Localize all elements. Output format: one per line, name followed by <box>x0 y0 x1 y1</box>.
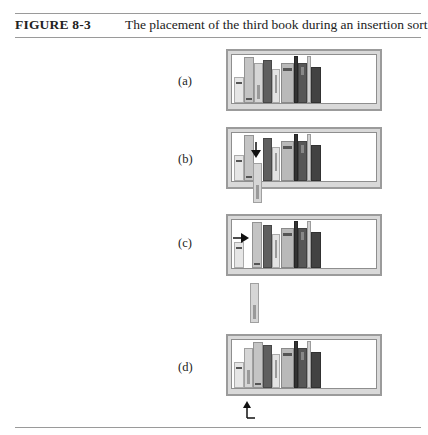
book-4 <box>263 345 272 388</box>
book-5 <box>272 147 280 181</box>
book-10 <box>311 67 321 103</box>
book-2 <box>244 57 254 103</box>
figure-number: FIGURE 8-3 <box>15 17 91 32</box>
book-8 <box>298 348 307 388</box>
book-8 <box>298 228 307 268</box>
caption-rule <box>15 37 421 38</box>
right-arrow-icon <box>233 233 249 243</box>
book-5 <box>272 69 280 103</box>
book-6 <box>281 63 294 103</box>
book-3-lifted <box>253 163 262 203</box>
up-arrow-icon <box>242 401 258 421</box>
book-3 <box>254 63 263 103</box>
panel-label-b: (b) <box>178 152 193 167</box>
book-5 <box>272 234 280 268</box>
book-4 <box>263 60 272 103</box>
bookshelf-c <box>226 214 382 276</box>
book-1 <box>234 242 244 268</box>
book-8 <box>298 141 307 181</box>
book-4 <box>263 138 272 181</box>
shelf-interior <box>231 219 377 269</box>
book-2 <box>252 222 262 268</box>
shelf-interior <box>231 54 377 104</box>
book-1 <box>234 362 244 388</box>
book-6 <box>281 348 294 388</box>
book-10 <box>311 145 321 181</box>
bookshelf-d <box>226 334 382 396</box>
down-arrow-icon <box>251 142 261 158</box>
top-rule <box>15 13 421 14</box>
book-6 <box>281 228 294 268</box>
figure-caption: FIGURE 8-3 The placement of the third bo… <box>15 17 91 33</box>
book-10 <box>311 232 321 268</box>
book-3-lifted <box>250 283 259 323</box>
bookshelf-a <box>226 49 382 111</box>
figure-title: The placement of the third book during a… <box>125 17 428 33</box>
book-5 <box>272 354 280 388</box>
bottom-rule <box>15 427 421 428</box>
panel-label-d: (d) <box>178 360 193 375</box>
book-4 <box>263 225 272 268</box>
book-3 <box>244 348 253 388</box>
panel-label-c: (c) <box>178 236 192 251</box>
book-1 <box>234 77 244 103</box>
book-1 <box>234 155 244 181</box>
panel-label-a: (a) <box>178 74 192 89</box>
book-10 <box>311 352 321 388</box>
book-8 <box>298 63 307 103</box>
shelf-interior <box>231 339 377 389</box>
bookshelf-b <box>226 127 382 189</box>
book-6 <box>281 141 294 181</box>
book-2 <box>253 342 263 388</box>
